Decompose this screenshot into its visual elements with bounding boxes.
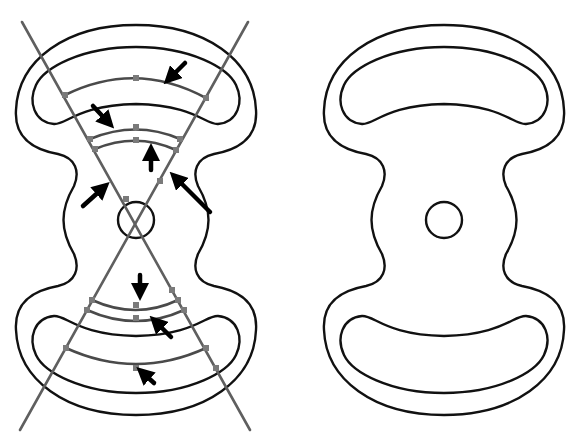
diagram-canvas [0, 0, 579, 435]
diagram-stage [0, 0, 579, 435]
arrow-icon [176, 178, 210, 212]
top-hole-boundary [341, 47, 548, 124]
left-panel [16, 22, 256, 430]
arc-nodes [62, 75, 219, 371]
right-panel [324, 25, 564, 415]
outer-boundary [324, 25, 564, 415]
arc-bottom-outer [66, 348, 206, 364]
arrow-icon [83, 188, 103, 206]
arrow-icon [143, 373, 154, 383]
bottom-hole-boundary [341, 316, 548, 393]
arc-top-outer [65, 78, 206, 98]
top-hole-boundary [33, 47, 240, 124]
arrow-icon [170, 63, 185, 78]
center-circle [426, 202, 462, 238]
